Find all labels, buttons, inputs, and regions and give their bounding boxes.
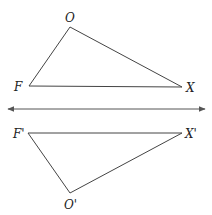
label-x-prime: X'	[184, 127, 197, 141]
reflection-diagram: O F X F' X' O'	[0, 0, 212, 215]
triangle-fox-prime	[28, 133, 182, 193]
label-x: X	[185, 81, 195, 95]
label-o-prime: O'	[64, 198, 77, 212]
label-f-prime: F'	[12, 127, 25, 141]
label-f: F	[13, 80, 23, 94]
label-o: O	[65, 11, 75, 25]
triangle-fox	[29, 27, 182, 87]
